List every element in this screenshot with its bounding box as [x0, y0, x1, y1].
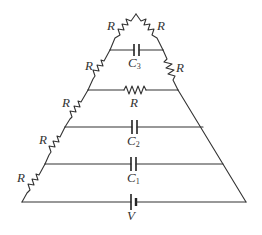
- label-r-left-2: R: [84, 58, 93, 73]
- capacitor-c2-rung: [65, 120, 203, 134]
- label-c3: C3: [128, 55, 141, 71]
- resistor-left-4: [45, 127, 65, 164]
- label-battery-v: V: [127, 208, 137, 223]
- label-r-middle: R: [129, 95, 138, 110]
- label-c2: C2: [127, 133, 140, 149]
- label-r-apex-left: R: [106, 18, 115, 33]
- label-r-left-5: R: [16, 170, 25, 185]
- right-edge-wire: [178, 90, 246, 202]
- resistor-left-5: [22, 164, 45, 202]
- label-r-left-3: R: [61, 95, 70, 110]
- label-c1: C1: [127, 170, 140, 186]
- label-r-right-2: R: [175, 60, 184, 75]
- resistor-middle-rung: [88, 86, 178, 94]
- circuit-diagram: R R C3 R R R R C2 R C1 R V: [0, 0, 262, 235]
- capacitor-c1-rung: [45, 157, 223, 171]
- label-r-apex-right: R: [156, 18, 165, 33]
- label-r-left-4: R: [38, 132, 47, 147]
